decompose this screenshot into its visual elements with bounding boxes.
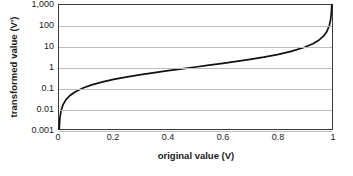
y-gridline <box>59 47 332 48</box>
x-axis-title: original value (V) <box>58 150 334 161</box>
x-tick-label: 0.8 <box>263 133 293 142</box>
y-tick-label: 0.1 <box>14 84 54 93</box>
y-tick-label: 1 <box>14 63 54 72</box>
y-gridline <box>59 110 332 111</box>
y-tick-label: 0.01 <box>14 105 54 114</box>
chart-figure: transformed value (V') 0.0010.010.111010… <box>0 0 353 176</box>
x-tick-label: 1 <box>318 133 348 142</box>
y-axis-tick-labels: 0.0010.010.11101001,000 <box>14 0 54 176</box>
x-tick-label: 0.6 <box>208 133 238 142</box>
y-gridline <box>59 68 332 69</box>
x-tick-label: 0.2 <box>98 133 128 142</box>
x-tick-label: 0.4 <box>153 133 183 142</box>
y-tick-label: 100 <box>14 21 54 30</box>
plot-area <box>58 4 333 130</box>
y-gridline <box>59 89 332 90</box>
y-tick-label: 10 <box>14 42 54 51</box>
y-gridline <box>59 26 332 27</box>
x-tick-label: 0 <box>43 133 73 142</box>
y-gridline <box>59 131 332 132</box>
y-tick-label: 1,000 <box>14 0 54 9</box>
